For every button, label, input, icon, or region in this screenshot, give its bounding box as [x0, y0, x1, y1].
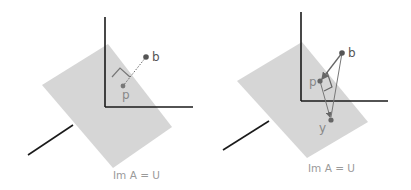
caption-im-a-u: Im A = U	[308, 162, 355, 174]
label-b: b	[152, 50, 160, 64]
left-panel: b p Im A = U	[28, 17, 193, 181]
axis-x	[223, 121, 269, 150]
axis-x	[28, 125, 73, 155]
vector-b-to-p	[322, 53, 342, 79]
point-y	[328, 117, 333, 122]
point-b	[339, 50, 345, 56]
diagram-canvas: b p Im A = U b p y Im A = U	[0, 0, 411, 190]
label-p: p	[309, 75, 317, 89]
point-p	[317, 78, 322, 83]
right-panel: b p y Im A = U	[223, 12, 388, 174]
label-p: p	[122, 88, 130, 102]
point-b	[143, 54, 149, 60]
label-b: b	[348, 46, 356, 60]
label-y: y	[319, 121, 326, 135]
caption-im-a-u: Im A = U	[113, 169, 160, 181]
